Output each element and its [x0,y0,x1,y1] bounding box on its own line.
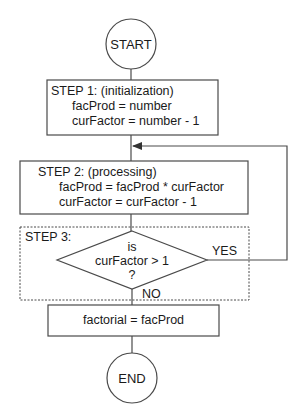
decision-line-1: is [92,240,172,255]
step3-title: STEP 3: [25,230,71,245]
decision-line-2: curFactor > 1 [82,254,182,269]
end-label: END [107,371,157,386]
step2-line-2: curFactor = curFactor - 1 [59,195,197,210]
result-label: factorial = facProd [48,313,219,328]
step2-title: STEP 2: (processing) [38,165,157,180]
start-label: START [106,37,156,52]
decision-line-3: ? [92,268,172,283]
step1-line-1: facProd = number [72,99,172,114]
step1-title: STEP 1: (initialization) [51,84,174,99]
yes-label: YES [212,244,237,259]
no-label: NO [142,287,161,302]
step1-line-2: curFactor = number - 1 [72,114,199,129]
step2-line-1: facProd = facProd * curFactor [59,180,224,195]
